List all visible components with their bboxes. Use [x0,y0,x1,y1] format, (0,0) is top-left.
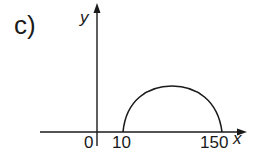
graph [0,0,260,162]
y-axis-arrow-icon [94,3,101,13]
x-axis-arrow-icon [237,129,247,136]
parabola-curve [123,86,222,132]
y-axis [94,3,101,146]
x-axis [40,129,247,136]
